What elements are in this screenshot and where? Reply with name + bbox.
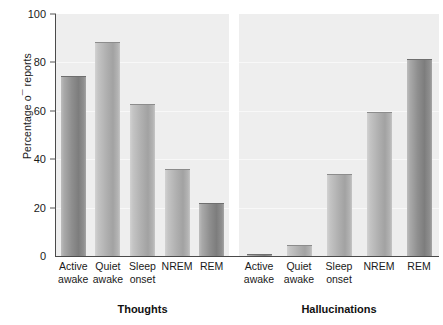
- bar-slot: [91, 14, 126, 256]
- bar-slot: [160, 14, 195, 256]
- bar-slot: [399, 14, 439, 256]
- category-label-line1: Sleep: [319, 260, 359, 273]
- category-label-line2: awake: [279, 273, 319, 286]
- x-axis-categories-thoughts: Active awake Quiet awake Sleep onset NRE…: [56, 260, 229, 294]
- category-label-active-awake: Active awake: [239, 260, 279, 294]
- x-axis-baseline: [55, 256, 439, 257]
- bar-hallucinations-sleep-onset: [327, 174, 352, 256]
- category-label-line2: awake: [56, 273, 91, 286]
- bar-hallucinations-quiet-awake: [287, 245, 312, 256]
- category-label-line2: awake: [239, 273, 279, 286]
- category-label-rem: REM: [194, 260, 229, 294]
- bar-slot: [194, 14, 229, 256]
- bar-series-hallucinations: [239, 14, 439, 256]
- category-label-line1: Active: [239, 260, 279, 273]
- category-label-nrem: NREM: [359, 260, 399, 294]
- category-label-line1: Sleep: [125, 260, 160, 273]
- category-label-line1: Quiet: [91, 260, 126, 273]
- y-tick-label-100: 100: [6, 8, 46, 20]
- bar-thoughts-quiet-awake: [95, 42, 120, 256]
- panel-title-thoughts: Thoughts: [56, 303, 229, 315]
- x-axis-categories-hallucinations: Active awake Quiet awake Sleep onset NRE…: [239, 260, 439, 294]
- y-tick-label-40: 40: [6, 153, 46, 165]
- panel-title-hallucinations: Hallucinations: [239, 303, 439, 315]
- bar-slot: [279, 14, 319, 256]
- bar-slot: [359, 14, 399, 256]
- category-label-quiet-awake: Quiet awake: [91, 260, 126, 294]
- category-label-line1: NREM: [160, 260, 195, 273]
- category-label-line2: awake: [91, 273, 126, 286]
- bar-thoughts-active-awake: [61, 76, 86, 256]
- y-tick-label-60: 60: [6, 105, 46, 117]
- category-label-sleep-onset: Sleep onset: [125, 260, 160, 294]
- y-tick-label-20: 20: [6, 202, 46, 214]
- bar-series-thoughts: [56, 14, 229, 256]
- category-label-line1: REM: [399, 260, 439, 273]
- category-label-line2: onset: [319, 273, 359, 286]
- bar-hallucinations-nrem: [367, 112, 392, 256]
- bar-thoughts-sleep-onset: [130, 104, 155, 257]
- bar-thoughts-rem: [199, 203, 224, 256]
- y-tick-label-0: 0: [6, 250, 46, 262]
- category-label-active-awake: Active awake: [56, 260, 91, 294]
- category-label-line2: onset: [125, 273, 160, 286]
- category-label-sleep-onset: Sleep onset: [319, 260, 359, 294]
- category-label-nrem: NREM: [160, 260, 195, 294]
- category-label-quiet-awake: Quiet awake: [279, 260, 319, 294]
- bar-slot: [239, 14, 279, 256]
- category-label-line1: Active: [56, 260, 91, 273]
- plot-panel-hallucinations: [239, 14, 439, 256]
- category-label-rem: REM: [399, 260, 439, 294]
- category-label-line1: NREM: [359, 260, 399, 273]
- bar-slot: [319, 14, 359, 256]
- bar-thoughts-nrem: [165, 169, 190, 256]
- bar-hallucinations-rem: [407, 59, 432, 256]
- plot-panel-thoughts: [56, 14, 229, 256]
- y-axis-ticks: 100 80 60 40 20 0: [0, 0, 56, 325]
- bar-chart-figure: Percentage o¯ reports 100 80 60 40 20 0: [0, 0, 443, 325]
- category-label-line1: REM: [194, 260, 229, 273]
- bar-slot: [125, 14, 160, 256]
- category-label-line1: Quiet: [279, 260, 319, 273]
- bar-slot: [56, 14, 91, 256]
- y-tick-label-80: 80: [6, 56, 46, 68]
